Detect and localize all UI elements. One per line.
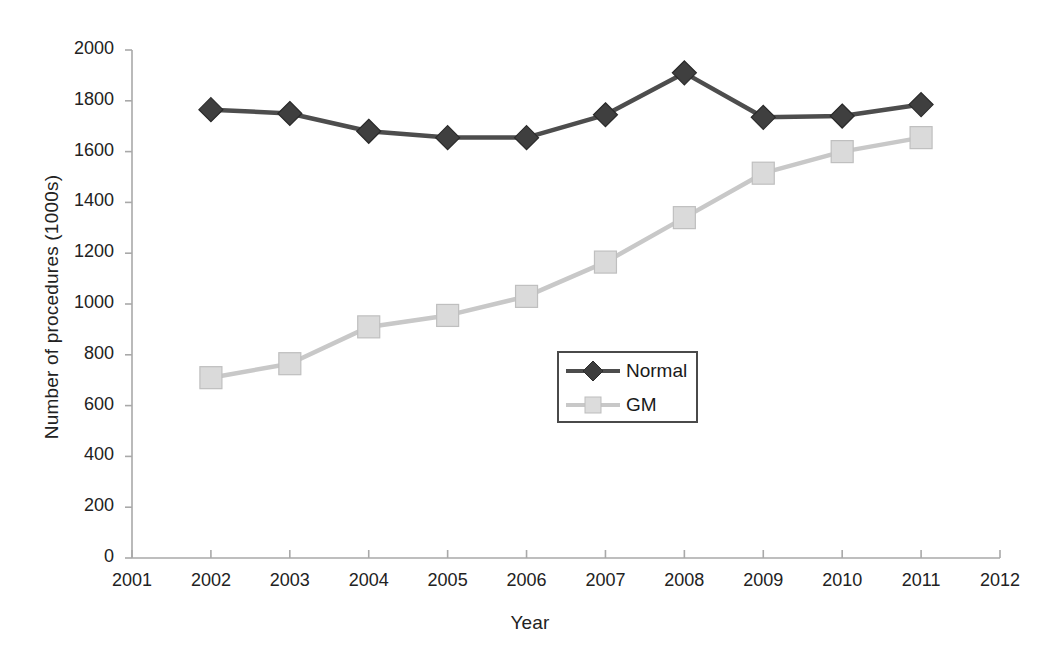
y-axis-tick-label: 1600 xyxy=(44,140,114,161)
data-point-marker xyxy=(672,61,696,85)
data-point-marker xyxy=(910,127,932,149)
y-axis-tick-label: 400 xyxy=(44,444,114,465)
series-line xyxy=(211,73,921,138)
data-point-marker xyxy=(437,304,459,326)
x-axis-tick-label: 2004 xyxy=(329,570,409,591)
x-axis-tick-label: 2002 xyxy=(171,570,251,591)
x-axis-tick-label: 2012 xyxy=(960,570,1040,591)
legend-label-gm: GM xyxy=(626,394,657,416)
data-point-marker xyxy=(752,162,774,184)
y-axis-tick-label: 0 xyxy=(44,546,114,567)
x-axis-tick-label: 2001 xyxy=(92,570,172,591)
data-point-marker xyxy=(751,105,775,129)
data-point-marker xyxy=(436,126,460,150)
data-point-marker xyxy=(358,316,380,338)
x-axis-tick-label: 2010 xyxy=(802,570,882,591)
chart-legend: Normal GM xyxy=(557,351,698,423)
data-point-marker xyxy=(357,119,381,143)
x-axis-tick-label: 2008 xyxy=(644,570,724,591)
y-axis-ticks xyxy=(125,50,132,558)
data-point-marker xyxy=(909,93,933,117)
y-axis-tick-label: 1200 xyxy=(44,241,114,262)
series-line xyxy=(211,138,921,378)
data-point-marker xyxy=(594,251,616,273)
legend-label-normal: Normal xyxy=(626,360,687,382)
data-point-marker xyxy=(593,103,617,127)
x-axis-tick-label: 2003 xyxy=(250,570,330,591)
data-point-marker xyxy=(278,102,302,126)
x-axis-tick-label: 2005 xyxy=(408,570,488,591)
data-point-marker xyxy=(831,141,853,163)
y-axis-tick-label: 1400 xyxy=(44,190,114,211)
data-point-marker xyxy=(516,285,538,307)
x-axis-tick-label: 2009 xyxy=(723,570,803,591)
data-point-marker xyxy=(673,207,695,229)
x-axis-tick-label: 2006 xyxy=(487,570,567,591)
series-gm xyxy=(200,127,932,389)
data-point-marker xyxy=(515,126,539,150)
x-axis-tick-label: 2011 xyxy=(881,570,961,591)
plot-area xyxy=(0,0,1060,657)
x-axis-tick-label: 2007 xyxy=(565,570,645,591)
legend-item-gm: GM xyxy=(559,388,696,422)
y-axis-tick-label: 1000 xyxy=(44,292,114,313)
x-axis-ticks xyxy=(132,550,1000,558)
legend-item-normal: Normal xyxy=(559,354,696,388)
y-axis-tick-label: 600 xyxy=(44,394,114,415)
data-point-marker xyxy=(199,98,223,122)
data-point-marker xyxy=(830,104,854,128)
series-normal xyxy=(199,61,933,150)
diamond-marker-icon xyxy=(564,359,622,383)
series-layer xyxy=(199,61,933,389)
y-axis-tick-label: 200 xyxy=(44,495,114,516)
line-chart: Number of procedures (1000s) Year 020040… xyxy=(0,0,1060,657)
y-axis-tick-label: 1800 xyxy=(44,89,114,110)
y-axis-tick-label: 2000 xyxy=(44,38,114,59)
y-axis-tick-label: 800 xyxy=(44,343,114,364)
data-point-marker xyxy=(200,367,222,389)
data-point-marker xyxy=(279,353,301,375)
square-marker-icon xyxy=(564,393,622,417)
